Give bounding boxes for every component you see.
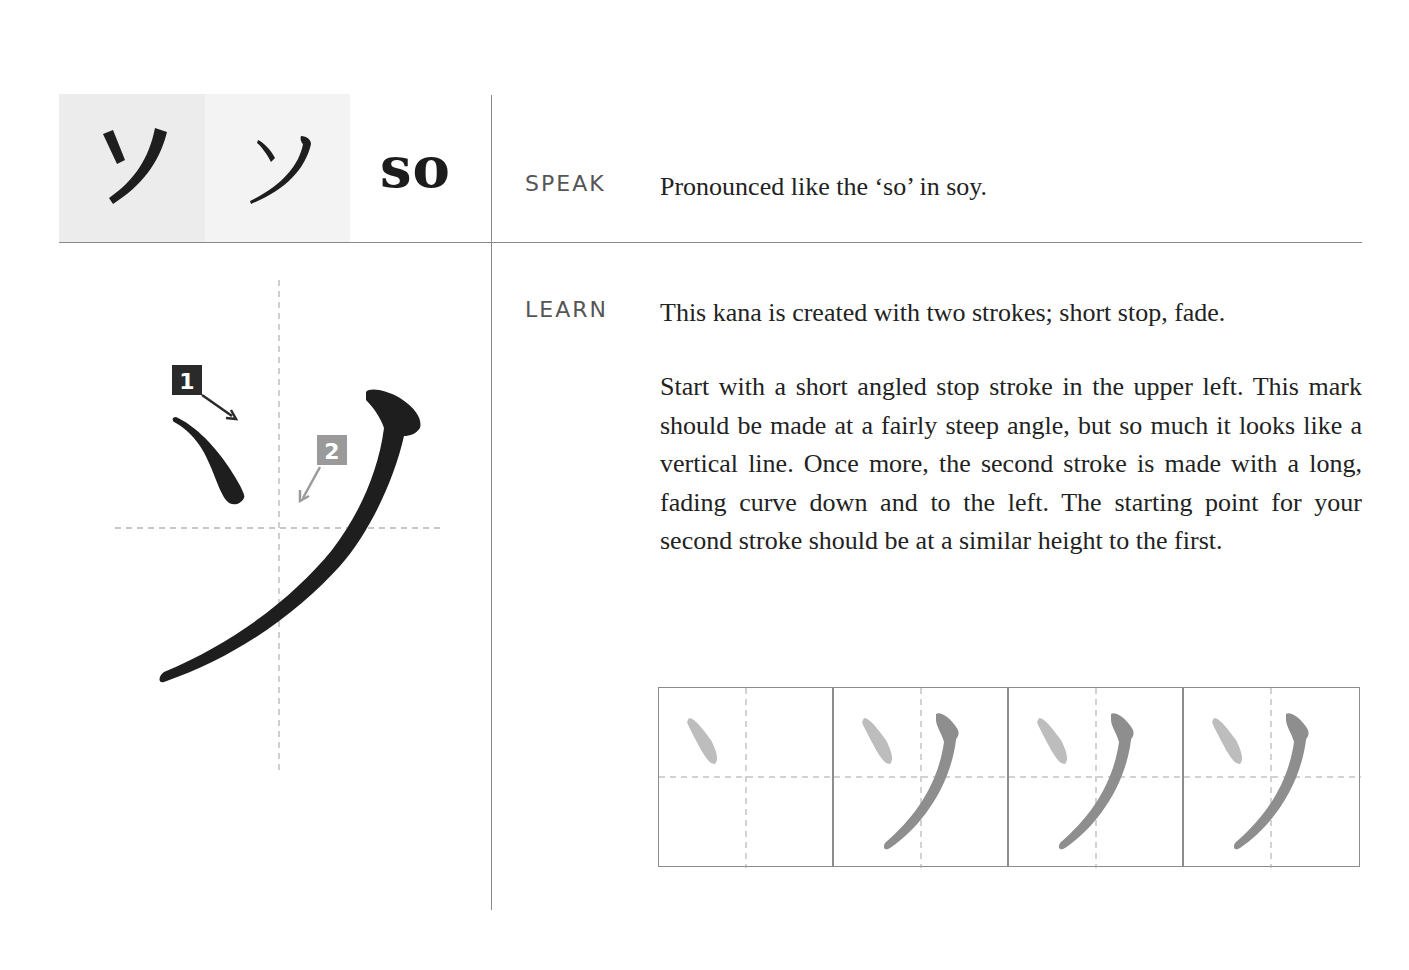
horizontal-divider <box>59 242 1362 243</box>
practice-cell-3 <box>1008 687 1183 867</box>
typeset-kana-cell <box>59 94 205 242</box>
learn-label: LEARN <box>525 297 608 322</box>
speak-label: SPEAK <box>525 171 606 196</box>
practice-cell-1 <box>658 687 833 867</box>
practice-stroke-1 <box>862 718 892 764</box>
romaji-cell: so <box>350 94 492 242</box>
stroke-2-number: 2 <box>324 439 339 464</box>
practice-cell-4 <box>1183 687 1360 867</box>
practice-grid <box>658 687 1360 867</box>
handwritten-kana-cell <box>205 94 350 242</box>
speak-text: Pronounced like the ‘so’ in soy. <box>660 168 1362 207</box>
handwritten-kana-glyph <box>205 94 350 242</box>
stroke-1-shape <box>173 417 245 504</box>
practice-stroke-1 <box>1212 718 1242 764</box>
guide-lines <box>115 280 442 775</box>
romaji-text: so <box>380 134 451 200</box>
practice-stroke-1 <box>1037 718 1067 764</box>
typeset-kana-glyph <box>59 94 205 242</box>
stroke-2-badge: 2 <box>300 435 347 501</box>
practice-cell-2 <box>833 687 1008 867</box>
learn-summary: This kana is created with two strokes; s… <box>660 294 1362 333</box>
stroke-order-diagram: 1 2 <box>100 270 460 780</box>
learn-detail: Start with a short angled stop stroke in… <box>660 368 1362 561</box>
vertical-divider <box>491 95 492 910</box>
practice-stroke-1 <box>687 718 717 764</box>
stroke-1-number: 1 <box>179 369 194 394</box>
stroke-1-badge: 1 <box>172 365 236 419</box>
